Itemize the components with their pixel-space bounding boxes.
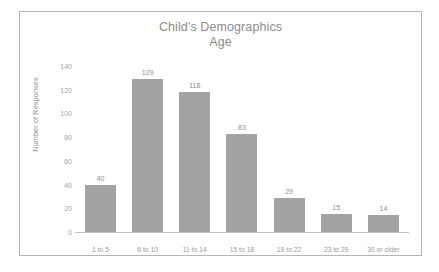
bar-value-label: 83 bbox=[238, 124, 246, 132]
bar-rect[interactable] bbox=[321, 214, 352, 232]
y-axis-tick: 40 bbox=[64, 181, 72, 188]
bar-value-label: 40 bbox=[97, 175, 105, 183]
x-axis-tick-label: 6 to 10 bbox=[124, 246, 171, 253]
bar-rect[interactable] bbox=[85, 185, 116, 232]
x-axis-tick-label: 19 to 22 bbox=[266, 246, 313, 253]
x-axis-line bbox=[75, 232, 409, 233]
bar-value-label: 14 bbox=[379, 205, 387, 213]
bar-item: 40 bbox=[77, 66, 124, 232]
chart-title-line-1: Child's Demographics bbox=[159, 20, 282, 34]
bar-item: 118 bbox=[171, 66, 218, 232]
bar-value-label: 15 bbox=[332, 204, 340, 212]
bar-item: 129 bbox=[124, 66, 171, 232]
y-axis-tick: 20 bbox=[64, 205, 72, 212]
y-axis-tick: 0 bbox=[68, 229, 72, 236]
y-axis-tick: 100 bbox=[60, 110, 72, 117]
bar-value-label: 118 bbox=[189, 82, 200, 90]
chart-frame: Child's Demographics Age Number of Respo… bbox=[19, 11, 422, 256]
x-axis-tick-label: 30 or older bbox=[360, 246, 407, 253]
x-axis-tick-label: 23 to 29 bbox=[313, 246, 360, 253]
bar-rect[interactable] bbox=[274, 198, 305, 232]
bar-rect[interactable] bbox=[226, 134, 257, 232]
bar-series: 40 129 118 83 29 15 14 bbox=[77, 66, 407, 232]
bar-value-label: 29 bbox=[285, 188, 293, 196]
y-axis-tick: 80 bbox=[64, 134, 72, 141]
x-axis-tick-label: 11 to 14 bbox=[171, 246, 218, 253]
bar-rect[interactable] bbox=[132, 79, 163, 232]
y-axis-tick: 60 bbox=[64, 157, 72, 164]
y-axis-title: Number of Responses bbox=[31, 45, 40, 185]
x-axis-tick-label: 15 to 18 bbox=[218, 246, 265, 253]
bar-item: 15 bbox=[313, 66, 360, 232]
bar-item: 14 bbox=[360, 66, 407, 232]
bar-value-label: 129 bbox=[142, 69, 154, 77]
chart-subtitle: Age bbox=[20, 35, 421, 50]
x-axis-labels: 1 to 5 6 to 10 11 to 14 15 to 18 19 to 2… bbox=[77, 246, 407, 253]
bar-item: 29 bbox=[266, 66, 313, 232]
bar-rect[interactable] bbox=[179, 92, 210, 232]
x-axis-tick-label: 1 to 5 bbox=[77, 246, 124, 253]
y-axis-tick: 120 bbox=[60, 86, 72, 93]
bar-rect[interactable] bbox=[368, 215, 399, 232]
chart-title: Child's Demographics Age bbox=[20, 20, 421, 50]
y-axis-tick: 140 bbox=[60, 63, 72, 70]
bar-item: 83 bbox=[218, 66, 265, 232]
